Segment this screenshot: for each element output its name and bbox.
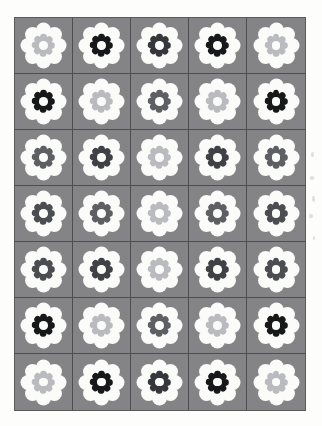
flower-cell	[131, 18, 189, 74]
flower-center	[97, 209, 106, 218]
flower-cell	[131, 130, 189, 186]
flower-center	[155, 41, 164, 50]
flower-center	[272, 265, 281, 274]
flower-center	[39, 97, 48, 106]
scan-speck	[311, 152, 314, 157]
flower-icon	[195, 247, 241, 293]
flower-cell	[73, 74, 131, 130]
flower-cell	[247, 354, 305, 410]
flower-center	[272, 209, 281, 218]
flower-icon	[195, 135, 241, 181]
flower-icon	[21, 79, 67, 125]
flower-cell	[131, 242, 189, 298]
flower-cell	[15, 74, 73, 130]
flower-cell	[131, 298, 189, 354]
flower-icon	[253, 23, 299, 69]
flower-center	[272, 321, 281, 330]
flower-icon	[195, 303, 241, 349]
flower-icon	[253, 303, 299, 349]
flower-icon	[79, 359, 125, 405]
flower-cell	[189, 74, 247, 130]
flower-cell	[73, 130, 131, 186]
flower-center	[155, 209, 164, 218]
flower-center	[272, 153, 281, 162]
flower-icon	[137, 247, 183, 293]
flower-cell	[189, 130, 247, 186]
flower-icon	[21, 359, 67, 405]
flower-center	[155, 97, 164, 106]
scan-speck	[309, 214, 313, 218]
flower-center	[97, 153, 106, 162]
flower-cell	[189, 354, 247, 410]
flower-center	[213, 378, 222, 387]
flower-icon	[21, 135, 67, 181]
flower-cell	[247, 130, 305, 186]
flower-cell	[247, 298, 305, 354]
flower-icon	[137, 303, 183, 349]
flower-center	[213, 153, 222, 162]
flower-icon	[21, 247, 67, 293]
flower-center	[213, 41, 222, 50]
flower-cell	[189, 242, 247, 298]
flower-cell	[189, 18, 247, 74]
flower-icon	[137, 79, 183, 125]
flower-icon	[253, 247, 299, 293]
flower-icon	[195, 79, 241, 125]
flower-center	[272, 97, 281, 106]
scan-speck	[312, 196, 315, 202]
flower-cell	[15, 242, 73, 298]
flower-cell	[247, 186, 305, 242]
flower-center	[39, 41, 48, 50]
flower-center	[155, 265, 164, 274]
scan-speck	[310, 176, 314, 180]
flower-icon	[253, 359, 299, 405]
flower-cell	[247, 74, 305, 130]
flower-center	[213, 209, 222, 218]
flower-icon	[137, 23, 183, 69]
pattern-sheet	[0, 0, 322, 426]
flower-cell	[73, 18, 131, 74]
flower-center	[39, 321, 48, 330]
flower-center	[155, 378, 164, 387]
flower-center	[213, 265, 222, 274]
flower-cell	[15, 18, 73, 74]
flower-icon	[79, 247, 125, 293]
flower-cell	[15, 130, 73, 186]
flower-center	[97, 265, 106, 274]
flower-center	[97, 41, 106, 50]
flower-cell	[189, 186, 247, 242]
flower-cell	[15, 298, 73, 354]
flower-cell	[131, 74, 189, 130]
flower-cell	[15, 354, 73, 410]
flower-icon	[79, 191, 125, 237]
flower-icon	[195, 23, 241, 69]
flower-icon	[79, 135, 125, 181]
flower-icon	[195, 191, 241, 237]
flower-center	[39, 153, 48, 162]
flower-center	[213, 321, 222, 330]
flower-icon	[253, 79, 299, 125]
flower-icon	[195, 359, 241, 405]
flower-cell	[73, 186, 131, 242]
flower-center	[97, 321, 106, 330]
flower-center	[39, 209, 48, 218]
flower-center	[155, 153, 164, 162]
scan-speck	[313, 236, 315, 240]
flower-cell	[189, 298, 247, 354]
flower-pattern-grid	[14, 17, 306, 411]
flower-center	[39, 378, 48, 387]
flower-icon	[137, 191, 183, 237]
flower-icon	[79, 23, 125, 69]
flower-cell	[247, 242, 305, 298]
flower-icon	[79, 79, 125, 125]
flower-center	[97, 97, 106, 106]
flower-cell	[73, 298, 131, 354]
flower-icon	[79, 303, 125, 349]
flower-center	[213, 97, 222, 106]
flower-icon	[137, 135, 183, 181]
flower-center	[155, 321, 164, 330]
flower-center	[97, 378, 106, 387]
flower-cell	[73, 354, 131, 410]
flower-icon	[253, 135, 299, 181]
flower-icon	[21, 303, 67, 349]
